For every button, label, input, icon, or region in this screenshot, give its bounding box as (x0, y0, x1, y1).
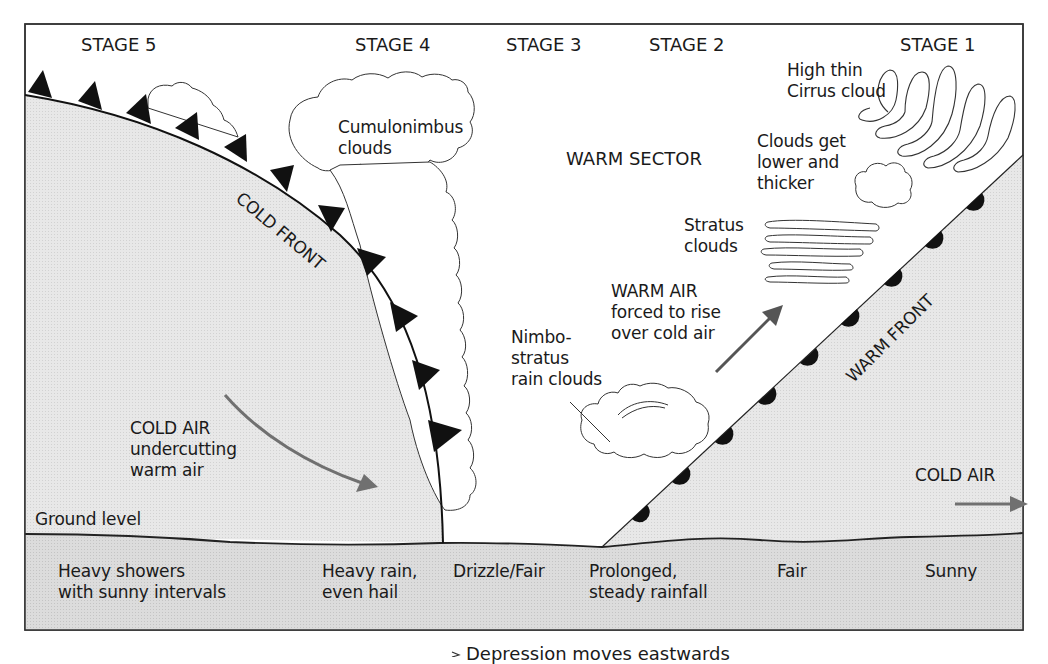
cumulonimbus-label: Cumulonimbus clouds (338, 117, 463, 159)
weather-stage-2: Prolonged, steady rainfall (589, 561, 707, 603)
stage-4-label: STAGE 4 (355, 34, 431, 55)
cirrus-label: High thin Cirrus cloud (787, 60, 886, 102)
warm-sector-label: WARM SECTOR (566, 148, 702, 169)
weather-stage-3: Drizzle/Fair (453, 561, 545, 582)
lower-thicker-label: Clouds get lower and thicker (757, 131, 846, 194)
nimbostratus-label: Nimbo- stratus rain clouds (511, 327, 602, 390)
weather-stage-5: Heavy showers with sunny intervals (58, 561, 226, 603)
stage-2-label: STAGE 2 (649, 34, 725, 55)
stage-5-label: STAGE 5 (81, 34, 157, 55)
stage-3-label: STAGE 3 (506, 34, 582, 55)
caption: Depression moves eastwards (466, 643, 730, 664)
caption-arrow-icon (452, 652, 459, 657)
weather-stage-4: Heavy rain, even hail (322, 561, 417, 603)
weather-fair: Fair (777, 561, 807, 582)
warm-air-label: WARM AIR forced to rise over cold air (611, 281, 721, 344)
cold-air-undercutting-label: COLD AIR undercutting warm air (130, 418, 237, 481)
cold-air-right-label: COLD AIR (915, 465, 995, 486)
stratus-label: Stratus clouds (684, 215, 744, 257)
stage-1-label: STAGE 1 (900, 34, 976, 55)
weather-stage-1: Sunny (925, 561, 977, 582)
ground-level-label: Ground level (35, 509, 141, 530)
